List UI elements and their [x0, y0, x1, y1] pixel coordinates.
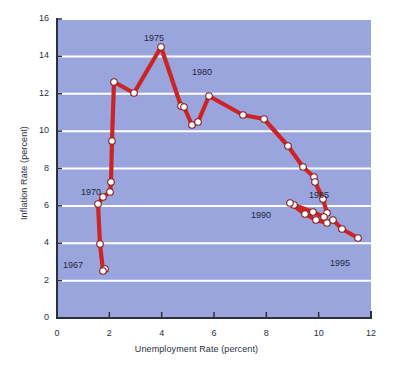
y-axis-title: Inflation Rate (percent) [19, 93, 29, 253]
data-point-marker [111, 79, 118, 86]
data-point-marker [330, 217, 337, 224]
data-point-marker [131, 90, 138, 97]
annotation-1975: 1975 [144, 33, 164, 43]
data-point-marker [100, 268, 107, 275]
annotation-1980: 1980 [192, 67, 212, 77]
data-point-marker [339, 226, 346, 233]
x-tick-label-12: 12 [360, 328, 382, 338]
data-point-marker [97, 241, 104, 248]
plot-canvas [0, 0, 393, 365]
data-point-marker [313, 217, 320, 224]
y-tick-label-8: 8 [27, 163, 49, 173]
data-point-marker [287, 200, 294, 207]
data-point-marker [109, 138, 116, 145]
y-tick-label-6: 6 [27, 200, 49, 210]
y-tick-label-2: 2 [27, 275, 49, 285]
data-point-marker [310, 209, 317, 216]
annotation-1970: 1970 [81, 187, 101, 197]
y-tick-label-12: 12 [27, 88, 49, 98]
phillips-curve-chart: Inflation Rate (percent) Unemployment Ra… [0, 0, 393, 365]
y-tick-label-14: 14 [27, 50, 49, 60]
y-tick-label-0: 0 [27, 312, 49, 322]
data-point-marker [355, 235, 362, 242]
data-point-marker [261, 116, 268, 123]
data-point-marker [206, 93, 213, 100]
x-tick-label-8: 8 [255, 328, 277, 338]
data-point-marker [285, 143, 292, 150]
annotation-1985: 1985 [309, 190, 329, 200]
y-tick-label-16: 16 [27, 13, 49, 23]
data-point-marker [107, 189, 114, 196]
data-point-marker [300, 164, 307, 171]
y-tick-label-4: 4 [27, 237, 49, 247]
data-point-marker [181, 104, 188, 111]
x-tick-label-6: 6 [203, 328, 225, 338]
data-point-marker [158, 44, 165, 51]
x-tick-label-0: 0 [46, 328, 68, 338]
annotation-1995: 1995 [330, 258, 350, 268]
y-tick-label-10: 10 [27, 125, 49, 135]
x-axis-title: Unemployment Rate (percent) [0, 344, 393, 354]
data-point-marker [240, 112, 247, 119]
data-point-marker [95, 201, 102, 208]
annotation-1990: 1990 [251, 210, 271, 220]
data-point-marker [302, 211, 309, 218]
annotation-1967: 1967 [63, 260, 83, 270]
x-tick-label-10: 10 [308, 328, 330, 338]
x-tick-label-4: 4 [151, 328, 173, 338]
x-tick-label-2: 2 [98, 328, 120, 338]
data-point-marker [312, 179, 319, 186]
data-point-marker [195, 119, 202, 126]
data-point-marker [108, 179, 115, 186]
